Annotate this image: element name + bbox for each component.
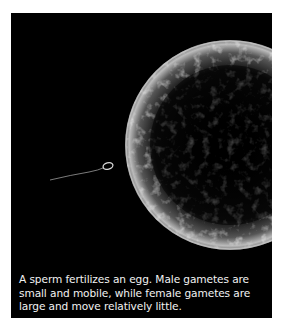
egg-and-sperm-image	[11, 13, 272, 273]
sperm-cell	[50, 162, 114, 180]
figure-caption: A sperm fertilizes an egg. Male gametes …	[19, 273, 269, 314]
figure-frame: A sperm fertilizes an egg. Male gametes …	[11, 13, 272, 318]
egg-cell	[125, 40, 272, 250]
